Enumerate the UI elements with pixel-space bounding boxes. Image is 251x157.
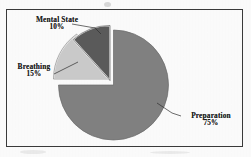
slice-label-preparation: Preparation 75% bbox=[180, 112, 242, 127]
slice-label-mental-state: Mental State 10% bbox=[28, 16, 86, 31]
slice-label-breathing-percent: 15% bbox=[7, 71, 61, 78]
slice-label-preparation-percent: 75% bbox=[180, 120, 242, 127]
slice-label-mental-state-percent: 10% bbox=[28, 24, 86, 31]
slice-label-breathing: Breathing 15% bbox=[7, 63, 61, 78]
